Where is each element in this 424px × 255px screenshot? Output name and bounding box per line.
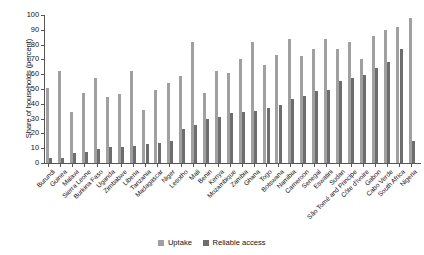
x-tick-mark: [363, 164, 364, 167]
x-tick-mark: [60, 164, 61, 167]
x-tick-mark: [242, 164, 243, 167]
bar-chart: Share of households (percent) 0102030405…: [0, 0, 424, 255]
x-tick-mark: [302, 164, 303, 167]
legend-label-uptake: Uptake: [168, 238, 192, 247]
x-tick-mark: [399, 164, 400, 167]
x-tick-mark: [48, 164, 49, 167]
x-tick-mark: [314, 164, 315, 167]
x-tick-mark: [375, 164, 376, 167]
x-tick-mark: [193, 164, 194, 167]
x-tick-mark: [97, 164, 98, 167]
x-tick-mark: [169, 164, 170, 167]
chart-legend: Uptake Reliable access: [0, 238, 424, 247]
legend-item-uptake: Uptake: [158, 238, 192, 247]
x-tick-mark: [290, 164, 291, 167]
x-tick-mark: [109, 164, 110, 167]
x-tick-mark: [133, 164, 134, 167]
x-tick-mark: [84, 164, 85, 167]
x-tick-mark: [230, 164, 231, 167]
x-tick-mark: [326, 164, 327, 167]
x-tick-mark: [205, 164, 206, 167]
legend-swatch-uptake: [158, 240, 164, 246]
x-tick-mark: [218, 164, 219, 167]
legend-swatch-reliable-access: [203, 240, 209, 246]
legend-item-reliable-access: Reliable access: [203, 238, 266, 247]
x-axis-labels: BurundiGuineaMalawiSierra LeoneBurkina F…: [0, 0, 424, 255]
x-tick-mark: [387, 164, 388, 167]
x-tick-mark: [181, 164, 182, 167]
legend-label-reliable-access: Reliable access: [212, 238, 265, 247]
x-tick-mark: [339, 164, 340, 167]
x-tick-mark: [278, 164, 279, 167]
x-tick-mark: [254, 164, 255, 167]
x-tick-mark: [121, 164, 122, 167]
x-tick-mark: [145, 164, 146, 167]
x-tick-mark: [411, 164, 412, 167]
x-tick-mark: [266, 164, 267, 167]
x-tick-mark: [157, 164, 158, 167]
x-tick-mark: [351, 164, 352, 167]
x-tick-mark: [72, 164, 73, 167]
